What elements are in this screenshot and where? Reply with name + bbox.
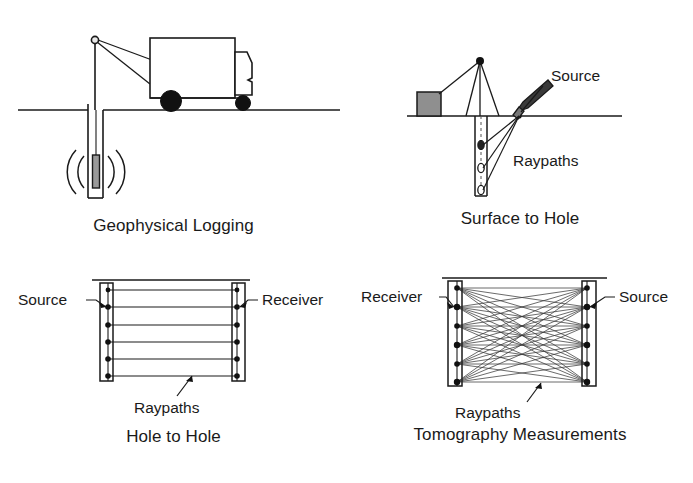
source-leader-line xyxy=(521,86,543,112)
truck-cab xyxy=(235,52,252,95)
label-receiver: Receiver xyxy=(262,291,323,308)
label-raypaths: Raypaths xyxy=(455,404,521,421)
label-raypaths: Raypaths xyxy=(134,399,200,416)
left-borehole-casing xyxy=(100,283,113,381)
right-borehole-casing xyxy=(582,281,596,386)
panel-tomography-measurements: Receiver Source Raypaths Tomography Meas… xyxy=(347,250,693,483)
crossing-raypath-fan xyxy=(457,288,587,382)
left-borehole-casing xyxy=(448,281,462,386)
logging-probe xyxy=(93,155,100,188)
caption-surface-to-hole: Surface to Hole xyxy=(347,209,693,229)
panel-hole-to-hole: Source Receiver Raypaths Hole to Hole xyxy=(0,250,347,483)
label-receiver: Receiver xyxy=(361,288,422,305)
truck-body xyxy=(150,38,235,98)
label-raypaths: Raypaths xyxy=(513,152,579,169)
wave-arcs-right xyxy=(108,150,125,194)
panel-geophysical-logging: Geophysical Logging xyxy=(0,0,347,250)
caption-geophysical-logging: Geophysical Logging xyxy=(0,216,347,236)
caption-tomography-measurements: Tomography Measurements xyxy=(347,425,693,445)
equipment-box xyxy=(417,92,441,116)
caption-hole-to-hole: Hole to Hole xyxy=(0,427,347,447)
label-source: Source xyxy=(619,288,668,305)
derrick-legs xyxy=(439,61,499,116)
hole-to-hole-drawing: Source Receiver Raypaths xyxy=(0,250,347,483)
winch-cables xyxy=(97,40,152,84)
truck-rear-wheel xyxy=(161,91,182,112)
borehole-inner-strings xyxy=(108,283,237,381)
wave-arcs-left xyxy=(67,150,84,194)
sledgehammer-icon xyxy=(513,80,553,119)
derrick-apex xyxy=(476,57,484,65)
raypath-bundle xyxy=(108,290,237,376)
tomography-drawing: Receiver Source Raypaths xyxy=(347,250,693,483)
label-source: Source xyxy=(18,291,67,308)
right-borehole-casing xyxy=(232,283,245,381)
label-source: Source xyxy=(551,67,600,84)
geophysical-logging-drawing xyxy=(0,0,347,250)
truck-front-wheel xyxy=(236,96,251,111)
panel-surface-to-hole: Source Raypaths Surface to Hole xyxy=(347,0,693,250)
figure-container: Geophysical Logging xyxy=(0,0,693,483)
leader-arrowheads xyxy=(447,302,597,389)
